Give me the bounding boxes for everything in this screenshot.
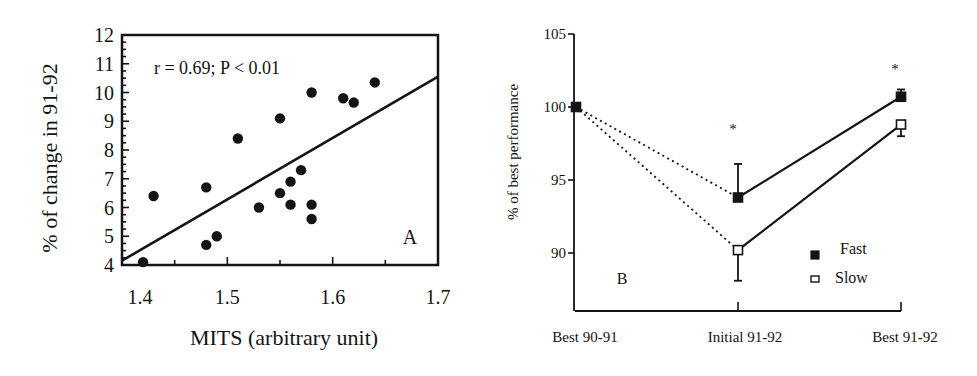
marker-fast — [572, 103, 581, 112]
legend-marker-fast — [811, 251, 819, 259]
y-tick-label: 90 — [551, 245, 566, 261]
line-chart-b: 9095100105Best 90-91Initial 91-92Best 91… — [0, 0, 977, 376]
y-tick-label: 100 — [544, 99, 567, 115]
series-line-solid-fast — [738, 97, 901, 198]
significance-asterisk: * — [891, 61, 899, 77]
marker-slow — [734, 246, 743, 255]
y-tick-label: 95 — [551, 172, 566, 188]
legend-label-fast: Fast — [840, 240, 867, 257]
marker-slow — [897, 120, 906, 129]
x-category-label: Best 91-92 — [872, 329, 937, 345]
panel-label-b: B — [617, 270, 628, 287]
x-category-label: Best 90-91 — [552, 329, 617, 345]
marker-fast — [734, 193, 743, 202]
y-axis-title: % of best performance — [505, 84, 521, 221]
x-category-label: Initial 91-92 — [708, 329, 783, 345]
series-line-dotted-fast — [576, 107, 738, 198]
legend-marker-slow — [811, 276, 819, 282]
marker-fast — [897, 92, 906, 101]
series-line-solid-slow — [738, 125, 901, 251]
legend-label-slow: Slow — [835, 269, 868, 286]
significance-asterisk: * — [729, 121, 737, 137]
series-line-dotted-slow — [576, 107, 738, 250]
y-tick-label: 105 — [544, 26, 567, 42]
